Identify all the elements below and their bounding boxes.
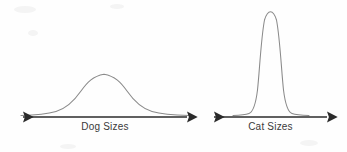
cat-sizes-axis-label: Cat Sizes — [211, 121, 330, 132]
cat-distribution-curve — [233, 12, 309, 116]
dog-distribution-curve — [21, 74, 189, 115]
distribution-comparison-figure: Dog Sizes Cat Sizes — [0, 0, 347, 152]
dog-sizes-axis-label: Dog Sizes — [20, 121, 190, 132]
